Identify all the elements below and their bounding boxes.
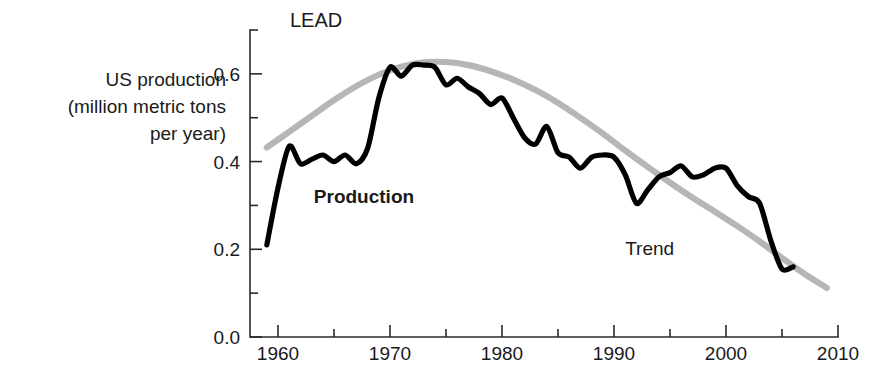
chart-title: LEAD: [290, 9, 342, 31]
x-tick-label: 1980: [481, 343, 523, 364]
data-series: [267, 62, 827, 288]
y-tick-label: 0.4: [214, 152, 241, 173]
series-line-trend: [267, 62, 827, 288]
production-label: Production: [314, 186, 414, 207]
x-tick-label: 1970: [369, 343, 411, 364]
plot-area: 0.00.20.40.6196019701980199020002010 LEA…: [0, 0, 886, 388]
x-tick-label: 2010: [817, 343, 859, 364]
chart-annotations: ProductionTrend: [314, 186, 674, 258]
trend-label: Trend: [625, 238, 674, 259]
y-tick-label: 0.0: [214, 327, 240, 348]
axis-lines: [250, 30, 838, 337]
x-tick-label: 1960: [257, 343, 299, 364]
axis-ticks: [250, 30, 838, 337]
y-tick-label: 0.6: [214, 64, 240, 85]
y-tick-label: 0.2: [214, 239, 240, 260]
x-tick-label: 1990: [593, 343, 635, 364]
x-tick-label: 2000: [705, 343, 747, 364]
chart-figure: US production (million metric tons per y…: [0, 0, 886, 388]
